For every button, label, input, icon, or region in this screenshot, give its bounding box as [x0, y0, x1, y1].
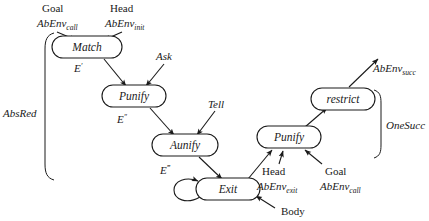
io-label-goal-call-bottom-line1: Goal	[325, 165, 346, 177]
io-label-goal-call-top: Goal AbEnvcall	[36, 2, 78, 32]
edge-aunify-to-exit	[199, 157, 222, 179]
node-aunify[interactable]: Aunify	[152, 134, 218, 156]
io-label-goal-call-bottom-line2: AbEnvcall	[319, 180, 361, 195]
node-exit-label: Exit	[218, 183, 238, 195]
edge-label-tell: Tell	[208, 98, 224, 110]
edge-punify-right-to-restrict	[305, 108, 327, 127]
io-label-head-init-top-line1: Head	[110, 2, 134, 14]
edge-label-e-prime: E′	[73, 62, 83, 74]
io-label-head-init-top: Head AbEnvinit	[104, 2, 145, 32]
edge-body-to-exit	[256, 196, 275, 208]
node-punify-right[interactable]: Punify	[257, 126, 321, 148]
edge-label-e-triple-prime: E‴	[159, 164, 171, 176]
brace-label-absred: AbsRed	[2, 107, 37, 119]
io-label-head-init-top-line2: AbEnvinit	[104, 17, 145, 32]
node-punify-left[interactable]: Punify	[102, 85, 166, 107]
label-abenv-succ: AbEnvsucc	[372, 62, 416, 77]
edge-punify-left-to-aunify	[150, 108, 174, 135]
node-punify-left-label: Punify	[118, 90, 150, 103]
edge-label-ask: Ask	[155, 50, 173, 62]
edge-head-exit-to-punify-right	[279, 151, 283, 164]
label-body: Body	[281, 205, 305, 217]
io-label-head-exit-bottom-line2: AbEnvexit	[256, 180, 298, 195]
node-match[interactable]: Match	[52, 36, 122, 58]
node-aunify-label: Aunify	[169, 139, 201, 152]
node-restrict[interactable]: restrict	[311, 88, 375, 110]
edge-labels-layer: E′ E″ E‴ Ask Tell	[73, 50, 224, 176]
io-label-goal-call-top-line2: AbEnvcall	[36, 17, 78, 32]
edge-ask-to-punify-left	[146, 64, 164, 86]
brace-absred	[45, 33, 54, 180]
node-punify-right-label: Punify	[273, 131, 305, 144]
edge-tell-to-aunify	[197, 111, 215, 135]
edge-goal-call-to-punify-right	[305, 150, 322, 164]
node-exit[interactable]: Exit	[196, 178, 260, 200]
node-match-label: Match	[71, 41, 102, 53]
edge-match-to-punify-left	[104, 59, 126, 86]
diagram-svg: Match Punify Aunify Exit Punify restrict	[0, 0, 429, 221]
io-label-goal-call-top-line1: Goal	[42, 2, 63, 14]
diagram-canvas: Match Punify Aunify Exit Punify restrict	[0, 0, 429, 221]
io-label-goal-call-bottom: Goal AbEnvcall	[319, 165, 361, 195]
edge-label-e-double-prime: E″	[116, 113, 128, 125]
io-label-head-exit-bottom: Head AbEnvexit	[256, 165, 298, 195]
node-restrict-label: restrict	[327, 93, 361, 105]
io-label-head-exit-bottom-line1: Head	[262, 165, 286, 177]
brace-label-onesucc: OneSucc	[386, 119, 425, 131]
